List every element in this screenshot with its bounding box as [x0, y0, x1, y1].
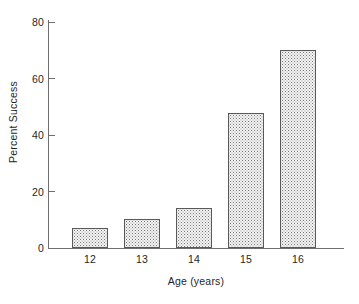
x-tick-label-16: 16 — [278, 254, 318, 265]
plot-area — [48, 18, 344, 248]
y-tick-label-0: 0 — [14, 243, 44, 254]
y-tick-20: 20 — [0, 187, 44, 197]
x-axis-title: Age (years) — [48, 275, 344, 287]
y-tick-0: 0 — [0, 243, 44, 253]
bar-age-13 — [124, 219, 160, 248]
bar-age-16 — [280, 50, 316, 248]
x-tick-label-13: 13 — [122, 254, 162, 265]
bar-age-15 — [228, 113, 264, 248]
x-tick-label-14: 14 — [174, 254, 214, 265]
y-tick-label-20: 20 — [14, 187, 44, 198]
x-tick-label-12: 12 — [70, 254, 110, 265]
x-tick-label-15: 15 — [226, 254, 266, 265]
bar-age-14 — [176, 208, 212, 248]
y-tick-label-80: 80 — [14, 17, 44, 28]
bar-age-12 — [72, 228, 108, 248]
y-axis-title: Percent Success — [7, 62, 19, 182]
y-tick-80: 80 — [0, 17, 44, 27]
bar-chart-figure: 80 60 40 20 0 12 13 14 15 16 Percent Suc… — [0, 0, 359, 304]
